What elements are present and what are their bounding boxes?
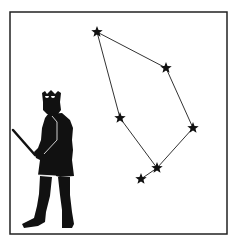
illustration-svg [0,0,238,241]
constellation-illustration [0,0,238,241]
head [43,102,61,114]
